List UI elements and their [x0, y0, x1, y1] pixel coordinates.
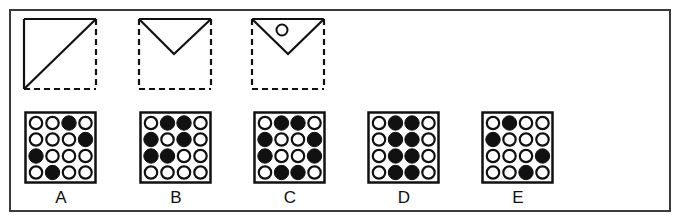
hole-empty — [145, 166, 157, 178]
hole-empty — [145, 117, 157, 129]
hole-empty — [487, 150, 499, 162]
hole-empty — [79, 166, 91, 178]
hole-filled — [144, 132, 158, 146]
hole-empty — [194, 117, 206, 129]
hole-empty — [46, 133, 58, 145]
hole-empty — [161, 166, 173, 178]
hole-filled — [274, 165, 288, 179]
hole-empty — [63, 133, 75, 145]
hole-empty — [46, 150, 58, 162]
hole-filled — [258, 149, 272, 163]
hole-empty — [178, 166, 190, 178]
hole-empty — [487, 166, 499, 178]
hole-filled — [388, 116, 402, 130]
hole-empty — [308, 166, 320, 178]
hole-empty — [259, 166, 271, 178]
hole-empty — [422, 117, 434, 129]
hole-empty — [520, 133, 532, 145]
hole-empty — [536, 133, 548, 145]
fold-step-1 — [22, 17, 100, 93]
hole-filled — [307, 149, 321, 163]
puzzle-frame — [9, 9, 671, 212]
hole-empty — [194, 166, 206, 178]
hole-filled — [160, 149, 174, 163]
hole-empty — [46, 117, 58, 129]
hole-filled — [62, 116, 76, 130]
hole-empty — [422, 166, 434, 178]
option-b-grid[interactable] — [139, 111, 213, 185]
hole-empty — [373, 133, 385, 145]
hole-empty — [373, 150, 385, 162]
hole-empty — [178, 150, 190, 162]
hole-empty — [503, 133, 515, 145]
option-c-grid[interactable] — [253, 111, 327, 185]
hole-empty — [536, 117, 548, 129]
hole-empty — [292, 150, 304, 162]
hole-filled — [405, 149, 419, 163]
hole-empty — [292, 133, 304, 145]
option-e-label[interactable]: E — [482, 188, 554, 208]
hole-filled — [160, 116, 174, 130]
hole-empty — [63, 166, 75, 178]
hole-filled — [405, 132, 419, 146]
hole-filled — [405, 165, 419, 179]
hole-empty — [275, 150, 287, 162]
hole-filled — [291, 165, 305, 179]
hole-empty — [161, 133, 173, 145]
hole-empty — [373, 117, 385, 129]
hole-filled — [405, 116, 419, 130]
hole-filled — [388, 165, 402, 179]
option-b-label[interactable]: B — [140, 188, 212, 208]
hole-filled — [45, 165, 59, 179]
hole-empty — [487, 117, 499, 129]
hole-empty — [503, 150, 515, 162]
hole-empty — [30, 117, 42, 129]
hole-filled — [388, 132, 402, 146]
hole-empty — [308, 117, 320, 129]
hole-filled — [388, 149, 402, 163]
hole-empty — [520, 150, 532, 162]
option-a-grid[interactable] — [24, 111, 98, 185]
fold-step-2 — [137, 17, 215, 93]
hole-filled — [519, 165, 533, 179]
option-d-grid[interactable] — [367, 111, 441, 185]
hole-empty — [30, 133, 42, 145]
hole-filled — [78, 132, 92, 146]
hole-empty — [503, 166, 515, 178]
hole-filled — [502, 116, 516, 130]
hole-filled — [535, 149, 549, 163]
option-c-label[interactable]: C — [254, 188, 326, 208]
hole-filled — [307, 132, 321, 146]
hole-empty — [63, 150, 75, 162]
hole-empty — [79, 150, 91, 162]
hole-empty — [79, 117, 91, 129]
hole-filled — [177, 132, 191, 146]
hole-empty — [259, 117, 271, 129]
hole-filled — [144, 149, 158, 163]
option-a-label[interactable]: A — [25, 188, 97, 208]
hole-empty — [536, 166, 548, 178]
hole-empty — [194, 133, 206, 145]
fold-step-3-with-hole — [250, 17, 328, 93]
hole-filled — [291, 116, 305, 130]
hole-empty — [520, 117, 532, 129]
hole-empty — [194, 150, 206, 162]
hole-filled — [274, 116, 288, 130]
hole-filled — [29, 149, 43, 163]
hole-filled — [486, 132, 500, 146]
hole-empty — [275, 133, 287, 145]
hole-filled — [258, 132, 272, 146]
option-e-grid[interactable] — [481, 111, 555, 185]
option-d-label[interactable]: D — [368, 188, 440, 208]
hole-empty — [422, 150, 434, 162]
hole-empty — [373, 166, 385, 178]
hole-empty — [422, 133, 434, 145]
hole-empty — [30, 166, 42, 178]
hole-filled — [177, 116, 191, 130]
